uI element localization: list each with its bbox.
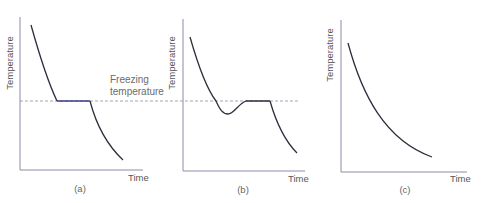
panel-a-caption: (a) — [74, 183, 86, 194]
freezing-label-line1: Freezing — [110, 74, 149, 85]
panel-a-cooling-liquid — [31, 25, 57, 101]
panel-c-cooling-curve — [348, 43, 432, 157]
panel-c-caption: (c) — [399, 184, 410, 195]
cooling-curves-figure: Temperature Time (a) Freezing temperatur… — [0, 0, 484, 203]
panel-c-ylabel: Temperature — [324, 28, 335, 81]
panel-b-caption: (b) — [237, 184, 249, 195]
freezing-label-line2: temperature — [110, 86, 164, 97]
panel-b-xlabel: Time — [288, 173, 309, 184]
panel-b: Temperature Time (b) — [166, 19, 309, 195]
panel-a-cooling-solid — [90, 101, 123, 160]
panel-b-ylabel: Temperature — [166, 36, 177, 89]
panel-b-supercooling-curve — [190, 37, 270, 114]
panel-b-cooling-solid — [270, 101, 297, 153]
panel-a-xlabel: Time — [128, 172, 149, 183]
panel-c: Temperature Time (c) — [324, 20, 471, 195]
panel-c-xlabel: Time — [450, 173, 471, 184]
panel-a: Temperature Time (a) — [4, 17, 149, 194]
panel-a-ylabel: Temperature — [4, 36, 15, 89]
